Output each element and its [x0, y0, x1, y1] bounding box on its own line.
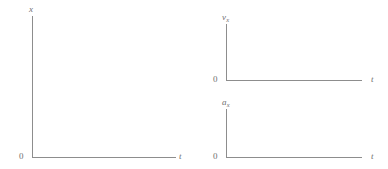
velocity-plot-x-axis-label: t: [371, 75, 374, 84]
position-plot-x-axis: [32, 157, 176, 158]
velocity-plot-origin-label: 0: [213, 75, 218, 84]
position-plot-y-axis-label: x: [29, 5, 33, 14]
figure-canvas: x t 0 vx t 0 ax t 0: [0, 0, 388, 169]
acceleration-plot-y-axis-label-base: a: [222, 97, 227, 107]
velocity-plot-y-axis: [226, 24, 227, 81]
acceleration-plot-x-axis: [226, 157, 362, 158]
position-plot-y-axis: [32, 16, 33, 158]
acceleration-plot-x-axis-label: t: [371, 152, 374, 161]
acceleration-time-plot: ax t 0: [194, 85, 388, 169]
acceleration-plot-y-axis-label: ax: [222, 98, 229, 107]
position-time-plot: x t 0: [0, 0, 194, 169]
acceleration-plot-y-axis-label-subscript: x: [227, 101, 230, 108]
velocity-plot-x-axis: [226, 80, 362, 81]
velocity-plot-y-axis-label-subscript: x: [226, 16, 229, 23]
velocity-plot-y-axis-label: vx: [222, 13, 229, 22]
acceleration-plot-origin-label: 0: [213, 152, 218, 161]
position-plot-origin-label: 0: [19, 152, 24, 161]
velocity-time-plot: vx t 0: [194, 0, 388, 90]
acceleration-plot-y-axis: [226, 109, 227, 158]
position-plot-x-axis-label: t: [179, 152, 182, 161]
